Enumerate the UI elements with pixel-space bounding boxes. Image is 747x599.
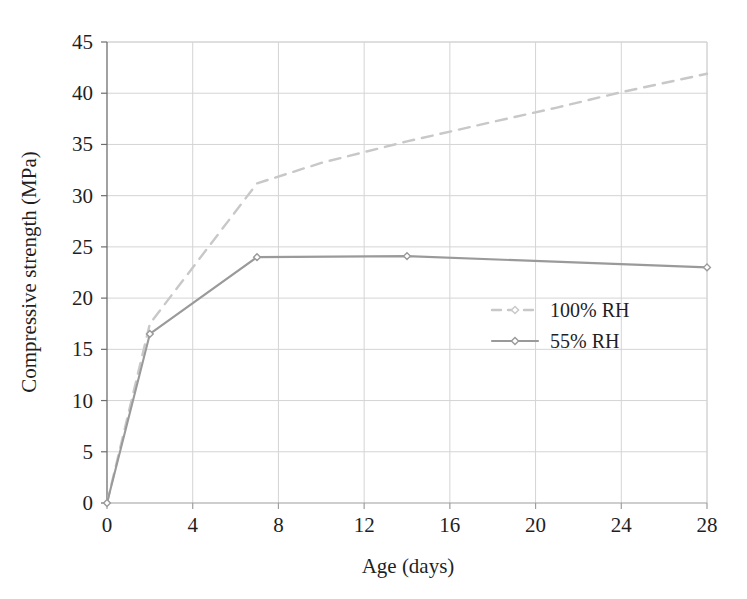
- series-line: [107, 256, 707, 503]
- legend-item-100-rh: 100% RH: [492, 299, 629, 321]
- series-55-rh: [104, 253, 711, 507]
- legend-item-55-rh: 55% RH: [492, 330, 619, 352]
- legend-marker-icon: [511, 337, 518, 344]
- y-axis-tick-label: 35: [72, 132, 93, 156]
- x-axis-tick-labels: 0481216202428: [102, 513, 718, 537]
- gridlines-vertical: [193, 42, 707, 503]
- series-line: [107, 74, 707, 503]
- x-axis-tick-label: 28: [697, 513, 718, 537]
- legend-label: 55% RH: [550, 330, 619, 352]
- plot-border: [107, 42, 707, 503]
- y-axis-tick-label: 25: [72, 235, 93, 259]
- x-axis-tick-label: 8: [273, 513, 284, 537]
- x-axis-tick-label: 4: [187, 513, 198, 537]
- x-axis-tick-label: 20: [525, 513, 546, 537]
- axis-lines: [107, 42, 707, 503]
- x-axis-tick-label: 16: [439, 513, 460, 537]
- y-axis-tick-label: 20: [72, 286, 93, 310]
- chart-figure: 051015202530354045 0481216202428 100% RH…: [0, 0, 747, 599]
- series-marker: [404, 253, 411, 260]
- y-axis-tick-label: 15: [72, 337, 93, 361]
- y-axis-tick-labels: 051015202530354045: [72, 30, 93, 515]
- data-series-layer: [104, 74, 711, 507]
- gridlines-horizontal: [107, 42, 707, 452]
- chart-svg: 051015202530354045 0481216202428 100% RH…: [0, 0, 747, 599]
- legend-marker-icon: [511, 306, 518, 313]
- series-100-rh: [107, 74, 707, 503]
- y-axis-tick-label: 5: [83, 440, 94, 464]
- series-marker: [104, 500, 111, 507]
- y-axis-tick-label: 45: [72, 30, 93, 54]
- y-axis-tick-label: 0: [83, 491, 94, 515]
- x-axis-tick-label: 0: [102, 513, 113, 537]
- chart-legend: 100% RH55% RH: [492, 299, 629, 352]
- x-axis-tick-label: 24: [611, 513, 633, 537]
- x-axis-tick-label: 12: [354, 513, 375, 537]
- y-axis-title: Compressive strength (MPa): [17, 151, 41, 392]
- y-axis-tick-label: 10: [72, 389, 93, 413]
- y-axis-tick-label: 40: [72, 81, 93, 105]
- legend-label: 100% RH: [550, 299, 629, 321]
- y-axis-tick-label: 30: [72, 184, 93, 208]
- series-marker: [704, 264, 711, 271]
- x-axis-title: Age (days): [362, 554, 455, 578]
- tick-marks: [101, 42, 707, 509]
